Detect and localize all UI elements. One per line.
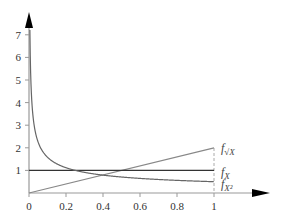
y-tick-label: 5: [16, 74, 22, 86]
axes: [25, 12, 270, 197]
y-tick-label: 1: [16, 164, 22, 176]
y-tick-label: 7: [16, 29, 22, 41]
density-chart: 1234567 00.20.40.60.81 f√XfXfX²: [0, 0, 282, 224]
series-label: f√X: [221, 141, 235, 157]
x-tick-label: 0.6: [133, 200, 147, 212]
y-ticks: 1234567: [16, 29, 30, 177]
y-tick-label: 4: [16, 97, 22, 109]
y-axis-arrow-icon: [25, 12, 33, 28]
series-group: [29, 30, 214, 193]
x-axis-arrow-icon: [252, 189, 270, 197]
x-tick-label: 0.4: [96, 200, 110, 212]
x-tick-label: 0.8: [170, 200, 184, 212]
y-tick-label: 3: [16, 119, 22, 131]
x-tick-label: 0.2: [59, 200, 73, 212]
x-ticks: 00.20.40.60.81: [26, 193, 217, 212]
series-line-f-x-2: [30, 30, 214, 182]
y-tick-label: 6: [16, 51, 22, 63]
series-labels: f√XfXfX²: [221, 141, 235, 193]
y-tick-label: 2: [16, 142, 22, 154]
x-tick-label: 0: [26, 200, 32, 212]
x-tick-label: 1: [211, 200, 217, 212]
